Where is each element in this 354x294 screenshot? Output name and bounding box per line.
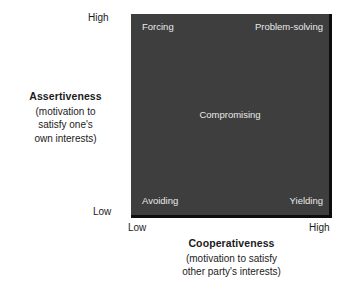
x-axis-tick-low: Low: [128, 222, 146, 234]
quadrant-label-compromising: Compromising: [199, 109, 260, 120]
y-axis-title: Assertiveness: [0, 90, 131, 104]
x-axis-tick-high: High: [309, 222, 330, 234]
y-axis-subtitle-line-3: own interests): [0, 132, 131, 146]
y-axis-tick-high: High: [88, 12, 109, 24]
x-axis-title: Cooperativeness: [131, 237, 332, 251]
quadrant-label-avoiding: Avoiding: [142, 195, 178, 206]
conflict-handling-matrix-figure: High Low Low High Forcing Problem-solvin…: [0, 0, 354, 294]
y-axis-subtitle-line-2: satisfy one's: [0, 118, 131, 132]
x-axis-subtitle-line-2: other party's interests): [131, 265, 332, 279]
x-axis-subtitle-line-1: (motivation to satisfy: [131, 252, 332, 266]
quadrant-label-forcing: Forcing: [142, 21, 174, 32]
quadrant-label-yielding: Yielding: [290, 195, 323, 206]
x-axis-title-block: Cooperativeness (motivation to satisfy o…: [131, 237, 332, 279]
y-axis-title-block: Assertiveness (motivation to satisfy one…: [0, 90, 131, 145]
quadrant-label-problem-solving: Problem-solving: [255, 21, 323, 32]
plot-area: Forcing Problem-solving Compromising Avo…: [131, 14, 332, 218]
y-axis-tick-low: Low: [93, 206, 111, 218]
y-axis-subtitle-line-1: (motivation to: [0, 105, 131, 119]
